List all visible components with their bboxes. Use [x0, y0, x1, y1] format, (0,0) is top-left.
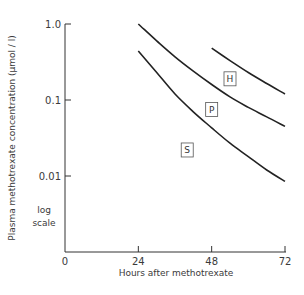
series-label-s: S: [184, 145, 190, 155]
y-tick-label: 0.1: [45, 95, 61, 106]
y-ticks: 1.00.10.01: [39, 19, 71, 182]
y-tick-label: 0.01: [39, 171, 61, 182]
x-tick-label: 72: [279, 256, 292, 267]
series-label-p: P: [209, 105, 215, 115]
x-ticks: 0244872: [62, 246, 292, 267]
x-tick-label: 48: [205, 256, 218, 267]
log-scale-note-line1: log: [37, 205, 51, 215]
x-tick-label: 24: [132, 256, 145, 267]
series-line-h: [212, 48, 285, 94]
series-label-h: H: [227, 74, 234, 84]
series-labels: HPS: [181, 72, 236, 157]
log-scale-note-line2: scale: [32, 218, 56, 228]
methotrexate-chart: 1.00.10.01 0244872 Plasma methotrexate c…: [0, 0, 304, 295]
x-tick-label: 0: [62, 256, 68, 267]
y-axis-title: Plasma methotrexate concentration (μmol …: [7, 35, 17, 240]
y-tick-label: 1.0: [45, 19, 61, 30]
x-axis-title: Hours after methotrexate: [119, 268, 234, 278]
